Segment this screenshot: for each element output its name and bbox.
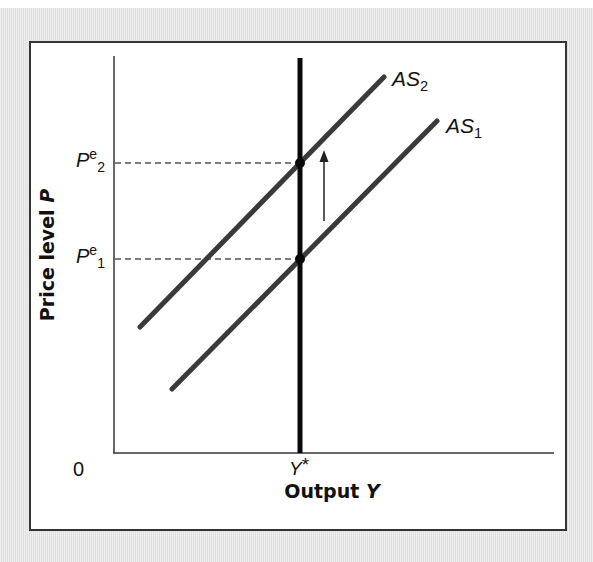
pe2-base: P bbox=[76, 149, 89, 171]
x-axis-title-var: Y bbox=[366, 480, 380, 502]
pe2-point bbox=[295, 158, 305, 168]
pe2-label: Pe2 bbox=[76, 149, 105, 172]
as1-sub: 1 bbox=[474, 125, 482, 141]
as1-base: AS bbox=[446, 114, 474, 137]
pe1-base: P bbox=[76, 245, 89, 267]
as2-base: AS bbox=[392, 67, 420, 90]
ystar-label: Y* bbox=[289, 458, 309, 480]
as2-curve bbox=[140, 77, 384, 327]
y-axis-title: Price level P bbox=[36, 189, 58, 321]
pe1-sup: e bbox=[89, 242, 97, 258]
as1-label: AS1 bbox=[446, 114, 482, 138]
pe2-sub: 2 bbox=[97, 159, 105, 175]
pe2-sup: e bbox=[89, 146, 97, 162]
as2-sub: 2 bbox=[420, 78, 428, 94]
origin-label: 0 bbox=[73, 458, 84, 481]
x-axis-title: Output Y bbox=[284, 480, 379, 502]
y-axis-title-var: P bbox=[36, 189, 58, 203]
pe1-label: Pe1 bbox=[76, 245, 105, 268]
as2-label: AS2 bbox=[392, 67, 428, 91]
ystar-star: * bbox=[302, 454, 309, 475]
pe1-point bbox=[295, 254, 305, 264]
pe1-sub: 1 bbox=[97, 255, 105, 271]
ystar-base: Y bbox=[289, 458, 302, 479]
y-axis-title-text: Price level bbox=[36, 203, 58, 321]
x-axis-title-text: Output bbox=[284, 480, 366, 502]
shift-arrow-icon bbox=[320, 150, 329, 162]
